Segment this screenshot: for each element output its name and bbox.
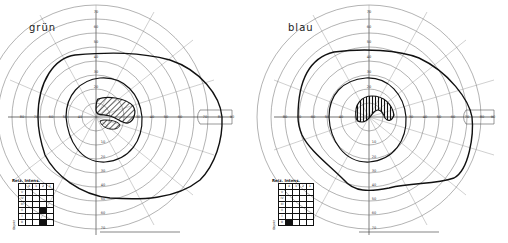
- svg-text:90: 90: [230, 115, 234, 119]
- visual-field-panel-blue: 807060 5040 304050 60708090 70605040 302…: [254, 0, 508, 243]
- svg-text:60: 60: [367, 25, 371, 29]
- svg-text:70: 70: [94, 10, 98, 14]
- chart-title: grün: [29, 22, 56, 33]
- svg-text:30: 30: [101, 169, 105, 173]
- blind-spot: [100, 120, 120, 129]
- scotoma-hatched: [96, 97, 135, 123]
- svg-text:20: 20: [94, 85, 98, 89]
- svg-text:70: 70: [34, 115, 38, 119]
- svg-text:40: 40: [150, 115, 154, 119]
- svg-text:20: 20: [372, 155, 376, 159]
- svg-text:60: 60: [372, 211, 376, 215]
- svg-text:10: 10: [101, 140, 105, 144]
- svg-text:40: 40: [78, 115, 82, 119]
- svg-text:60: 60: [451, 115, 455, 119]
- legend-filled-cell: [286, 220, 293, 226]
- legend-filled-cell: [40, 220, 47, 226]
- scotoma-hatched: [356, 96, 394, 122]
- svg-text:20: 20: [367, 85, 371, 89]
- svg-text:60: 60: [101, 211, 105, 215]
- svg-text:40: 40: [101, 183, 105, 187]
- svg-text:40: 40: [94, 55, 98, 59]
- legend-row-label: 0: [19, 220, 26, 226]
- svg-text:30: 30: [372, 169, 376, 173]
- svg-text:70: 70: [297, 115, 301, 119]
- svg-text:20: 20: [101, 155, 105, 159]
- svg-text:70: 70: [203, 115, 207, 119]
- svg-text:80: 80: [20, 115, 24, 119]
- svg-text:50: 50: [94, 40, 98, 44]
- svg-text:60: 60: [178, 115, 182, 119]
- legend-table: Reiz. Intens. 4321 V IV III II I 0 Objek…: [272, 178, 314, 226]
- svg-text:30: 30: [94, 70, 98, 74]
- svg-text:80: 80: [480, 115, 484, 119]
- svg-text:70: 70: [367, 10, 371, 14]
- svg-text:60: 60: [94, 25, 98, 29]
- legend-side-label: Objekt: [12, 220, 16, 230]
- svg-text:50: 50: [101, 197, 105, 201]
- chart-title: blau: [288, 22, 314, 33]
- svg-text:40: 40: [367, 55, 371, 59]
- legend-side-label: Objekt: [272, 220, 276, 230]
- svg-text:50: 50: [367, 40, 371, 44]
- svg-text:30: 30: [409, 115, 413, 119]
- legend-table: Reiz. Intens. 4321 V IV III II I 0 Objek…: [12, 178, 54, 226]
- visual-field-panel-green: 807060 5040 304050 60708090 70605040 302…: [0, 0, 254, 243]
- outer-isopter: [298, 50, 472, 190]
- svg-text:80: 80: [283, 115, 287, 119]
- svg-text:50: 50: [164, 115, 168, 119]
- svg-text:50: 50: [325, 115, 329, 119]
- svg-text:90: 90: [491, 115, 495, 119]
- legend-grid: 4321 V IV III II I 0: [278, 183, 314, 226]
- svg-text:70: 70: [465, 115, 469, 119]
- outer-isopter: [38, 53, 222, 199]
- svg-text:80: 80: [218, 115, 222, 119]
- svg-text:30: 30: [136, 115, 140, 119]
- svg-text:10: 10: [372, 140, 376, 144]
- svg-text:70: 70: [372, 226, 376, 230]
- svg-text:40: 40: [372, 183, 376, 187]
- svg-text:30: 30: [367, 70, 371, 74]
- svg-text:50: 50: [372, 197, 376, 201]
- svg-text:40: 40: [339, 115, 343, 119]
- svg-text:60: 60: [311, 115, 315, 119]
- legend-row-label: 0: [279, 220, 286, 226]
- svg-text:40: 40: [423, 115, 427, 119]
- svg-text:60: 60: [49, 115, 53, 119]
- svg-text:50: 50: [63, 115, 67, 119]
- svg-text:50: 50: [437, 115, 441, 119]
- svg-text:70: 70: [101, 226, 105, 230]
- legend-grid: 4321 V IV III II I 0: [18, 183, 54, 226]
